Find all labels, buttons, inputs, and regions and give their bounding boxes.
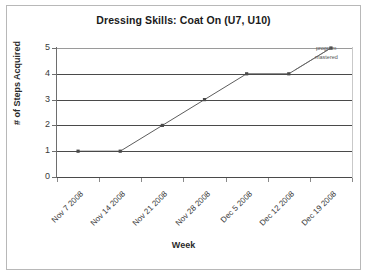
y-tick-mark	[52, 100, 57, 101]
y-tick-label: 1	[30, 146, 50, 155]
y-tick-label: 4	[30, 69, 50, 78]
gridline-2	[57, 125, 352, 126]
y-tick-label: 5	[30, 43, 50, 52]
y-tick-label: 2	[30, 120, 50, 129]
y-tick-label: 3	[30, 95, 50, 104]
gridline-0	[57, 177, 352, 178]
x-tick-mark	[57, 178, 58, 182]
x-tick-mark	[226, 178, 227, 182]
annotation-program-label: program	[316, 45, 336, 52]
x-axis-title: Week	[0, 240, 367, 250]
y-tick-mark	[52, 74, 57, 75]
x-tick-mark	[268, 178, 269, 182]
y-tick-label: 0	[30, 172, 50, 181]
x-tick-mark	[141, 178, 142, 182]
gridline-5	[57, 48, 352, 49]
annotation-mastered-label: mastered	[315, 54, 338, 61]
y-tick-mark	[52, 125, 57, 126]
chart-container: Dressing Skills: Coat On (U7, U10) # of …	[0, 0, 367, 276]
gridline-1	[57, 151, 352, 152]
gridline-3	[57, 100, 352, 101]
x-tick-mark	[183, 178, 184, 182]
y-tick-mark	[52, 151, 57, 152]
y-axis-title: # of Steps Acquired	[12, 28, 22, 138]
x-tick-mark	[310, 178, 311, 182]
x-tick-mark	[99, 178, 100, 182]
plot-right-edge	[352, 47, 353, 178]
chart-title: Dressing Skills: Coat On (U7, U10)	[0, 14, 367, 26]
gridline-4	[57, 74, 352, 75]
plot-area	[57, 48, 352, 177]
x-tick-mark	[352, 178, 353, 182]
y-tick-mark	[52, 48, 57, 49]
